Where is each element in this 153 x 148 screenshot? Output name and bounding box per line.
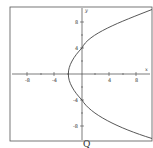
y-axis-label: y — [84, 7, 88, 14]
y-tick-label: -4 — [73, 97, 78, 103]
x-axis-label: x — [145, 66, 148, 72]
figure-caption: Q — [83, 139, 90, 148]
x-tick-label: 8 — [135, 77, 138, 83]
y-tick-label: 4 — [75, 45, 78, 51]
x-tick-label: -4 — [52, 77, 57, 83]
parabola-chart: -8 -4 4 8 8 4 -4 -8 x y — [0, 0, 153, 148]
y-tick-label: 8 — [75, 19, 78, 25]
x-tick-label: 4 — [108, 77, 111, 83]
x-tick-label: -8 — [25, 77, 30, 83]
y-tick-label: -8 — [73, 123, 78, 129]
